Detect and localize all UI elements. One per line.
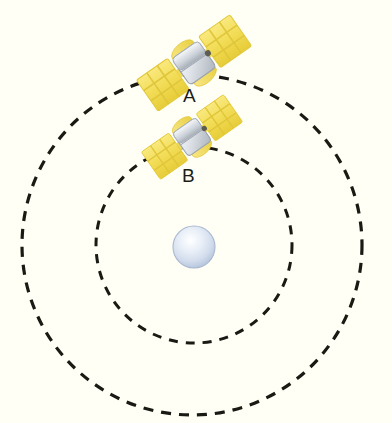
satellite-a-label: A	[183, 86, 196, 105]
orbit-diagram: A B	[0, 0, 392, 423]
diagram-canvas	[0, 0, 392, 423]
satellite-b-label: B	[182, 166, 195, 185]
planet-sphere	[173, 226, 215, 268]
central-planet	[173, 226, 215, 268]
